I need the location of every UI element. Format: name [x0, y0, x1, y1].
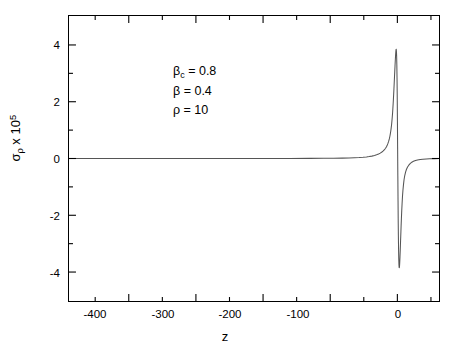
y-axis-title-exponent: 5 — [8, 115, 18, 120]
xtick-label-minus300: -300 — [138, 309, 188, 321]
xtick-label-minus200: -200 — [205, 309, 255, 321]
beta-c-value: = 0.8 — [185, 64, 217, 78]
x-axis-title-text: z — [222, 329, 229, 344]
plot-area — [68, 15, 440, 302]
figure-container: 4 2 0 -2 -4 -400 -300 -200 -100 0 z σρ x… — [0, 0, 450, 358]
y-axis-title-multiplier: x 10 — [8, 120, 23, 148]
xtick-label-minus100: -100 — [273, 309, 323, 321]
ytick-label-minus4: -4 — [30, 268, 60, 280]
y-axis-title-sigma: σ — [8, 154, 23, 162]
xtick-label-minus400: -400 — [70, 309, 120, 321]
annotation-line-beta: β = 0.4 — [173, 82, 216, 101]
data-curve — [69, 16, 439, 301]
y-axis-title: σρ x 105 — [9, 78, 25, 198]
ytick-label-2: 2 — [30, 97, 60, 109]
annotation-line-rho: ρ = 10 — [173, 101, 216, 120]
rho-value: = 10 — [180, 103, 208, 117]
x-axis-title: z — [0, 330, 450, 343]
parameter-annotation: βc = 0.8 β = 0.4 ρ = 10 — [173, 62, 216, 120]
ytick-label-4: 4 — [30, 40, 60, 52]
y-axis-title-subscript: ρ — [15, 148, 25, 153]
ytick-label-0: 0 — [30, 154, 60, 166]
xtick-label-0: 0 — [373, 309, 423, 321]
ytick-label-minus2: -2 — [30, 211, 60, 223]
annotation-line-beta-c: βc = 0.8 — [173, 62, 216, 82]
beta-value: = 0.4 — [180, 84, 212, 98]
